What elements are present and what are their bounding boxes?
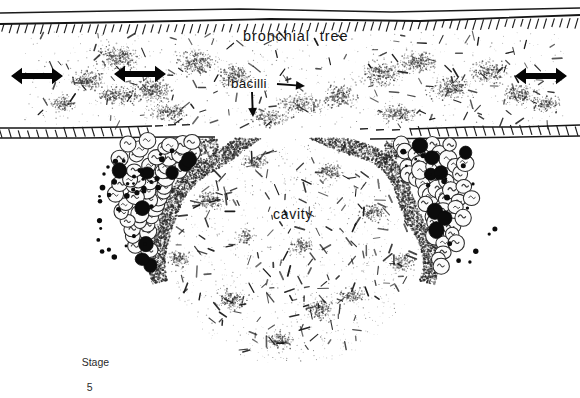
bacilli-arrow-down (248, 92, 257, 117)
label-bacilli: bacilli (231, 76, 267, 91)
label-bronchial-tree: bronchial tree (243, 28, 348, 44)
stage-number: 5 (70, 381, 109, 394)
bronchus-lower-wall (0, 125, 580, 139)
illustration-canvas (0, 0, 580, 398)
inflammatory-cell-mass (96, 133, 497, 275)
label-stage: Stage 5 (70, 343, 109, 398)
figure-stage-5-cavity: bronchial tree bacilli cavity Stage 5 (0, 0, 580, 398)
airflow-arrow-far-left (11, 68, 63, 84)
lumen-contents (24, 31, 564, 129)
label-cavity: cavity (273, 206, 313, 222)
airflow-arrow-left (114, 66, 166, 82)
stage-word: Stage (82, 356, 109, 368)
airflow-arrow-right (515, 68, 567, 84)
